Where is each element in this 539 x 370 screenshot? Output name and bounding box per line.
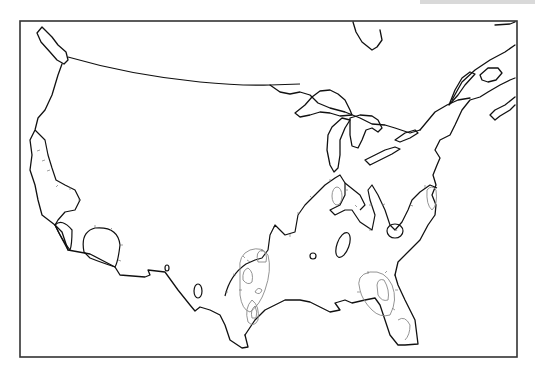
map-canvas [0, 0, 539, 370]
hachure-ticks [37, 150, 425, 310]
map-frame [20, 21, 517, 357]
great-lakes [295, 90, 418, 172]
landmass-outline [30, 22, 515, 348]
